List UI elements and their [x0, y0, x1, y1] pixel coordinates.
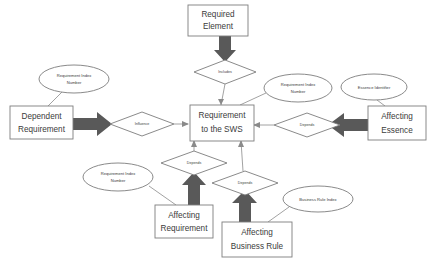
connector-attr-bottom-to-affecting-requirement [149, 186, 176, 205]
attribute-label-line2: Number [291, 89, 306, 94]
relationship-label: Depends [238, 181, 253, 185]
ellipse-shape [39, 65, 109, 93]
connector-attr-right-to-requirement [240, 93, 266, 105]
entity-affecting-essence[interactable]: Affecting Essence [368, 106, 426, 140]
attribute-requirement-index-number-right[interactable]: Requirement Index Number [264, 74, 332, 102]
entity-label-line2: Element [203, 22, 234, 31]
attribute-label-line1: Essence Identifier [358, 85, 391, 90]
er-diagram-canvas: Includes Influence Depends Depends Depen… [0, 0, 433, 262]
attribute-label-line1: Requirement Index [57, 73, 92, 78]
connector-attr-essence-to-affecting-essence [377, 100, 385, 106]
relationship-label: Depends [300, 123, 315, 127]
ellipse-shape [83, 163, 153, 191]
attribute-label-line1: Business Rule Index [299, 197, 336, 202]
relationship-includes[interactable]: Includes [194, 60, 256, 84]
arrowhead-influence-right [182, 121, 189, 127]
entity-dependent-requirement[interactable]: Dependent Requirement [10, 106, 73, 139]
relationship-label: Includes [218, 70, 232, 74]
attribute-label-line2: Number [67, 80, 82, 85]
entity-requirement-to-the-sws[interactable]: Requirement to the SWS [190, 105, 254, 141]
relationship-label: Influence [135, 122, 150, 126]
entity-affecting-requirement[interactable]: Affecting Requirement [155, 205, 213, 238]
attribute-essence-identifier[interactable]: Essence Identifier [341, 74, 407, 100]
relationship-label: Depends [187, 161, 202, 165]
relationship-influence[interactable]: Influence [110, 112, 174, 136]
attribute-label-line1: Requirement Index [101, 171, 136, 176]
attribute-label-line2: Number [111, 178, 126, 183]
arrow-dependent-requirement-to-influence [73, 112, 112, 136]
arrow-required-element-to-includes [214, 36, 236, 62]
relationship-depends-requirement[interactable]: Depends [161, 151, 227, 175]
entity-label-line1: Affecting [381, 112, 413, 121]
relationship-depends-essence[interactable]: Depends [274, 113, 340, 137]
entity-label-line1: Dependent [21, 112, 62, 121]
arrow-affecting-requirement-to-depends [182, 172, 206, 205]
connector-attr-left-to-dependent-requirement [48, 91, 63, 106]
arrowhead-includes-down [218, 99, 224, 105]
attribute-label-line1: Requirement Index [281, 82, 316, 87]
entity-label-line2: Requirement [161, 224, 209, 233]
entity-label-line2: to the SWS [201, 125, 243, 134]
attribute-requirement-index-number-bottom[interactable]: Requirement Index Number [83, 163, 153, 191]
ellipse-shape [264, 74, 332, 102]
attribute-requirement-index-number-left[interactable]: Requirement Index Number [39, 65, 109, 93]
entity-label-line1: Requirement [199, 111, 247, 120]
attribute-business-rule-index[interactable]: Business Rule Index [283, 186, 353, 212]
entity-label-line2: Essence [381, 126, 413, 135]
entity-label-line2: Business Rule [231, 242, 284, 251]
entity-label-line1: Affecting [168, 211, 200, 220]
entity-label-line1: Required [201, 10, 235, 19]
entity-affecting-business-rule[interactable]: Affecting Business Rule [222, 222, 292, 257]
connector-attr-businessrule-to-affecting-business-rule [268, 207, 289, 222]
entity-label-line2: Requirement [18, 125, 66, 134]
relationship-depends-business-rule[interactable]: Depends [212, 171, 278, 195]
entity-required-element[interactable]: Required Element [188, 5, 248, 36]
entity-label-line1: Affecting [241, 228, 273, 237]
